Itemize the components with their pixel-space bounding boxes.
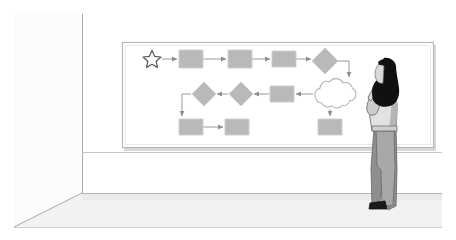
- flowchart-node-10[interactable]: [225, 119, 249, 135]
- flowchart-node-3[interactable]: [272, 51, 296, 67]
- flowchart-node-1[interactable]: [179, 50, 203, 68]
- flowchart-node-11[interactable]: [318, 119, 342, 135]
- left-wall: [14, 14, 82, 227]
- flowchart-node-9[interactable]: [179, 119, 203, 135]
- illustration-scene: Woman viewing a flowchart on an office w…: [0, 0, 456, 240]
- flowchart-node-6[interactable]: [270, 86, 294, 102]
- flowchart-node-2[interactable]: [228, 50, 252, 68]
- person-waistband: [372, 126, 397, 131]
- scene-svg: [0, 0, 456, 240]
